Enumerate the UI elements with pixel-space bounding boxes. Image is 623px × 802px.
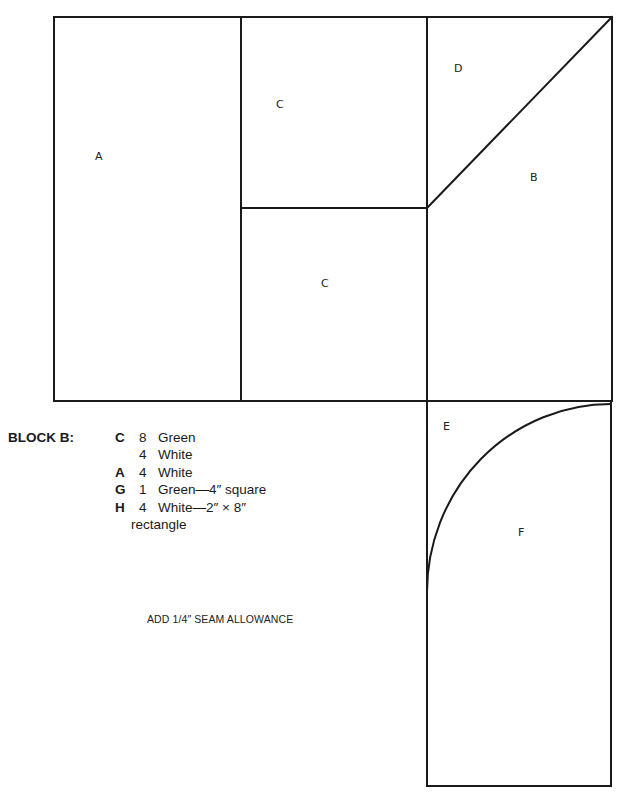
piece-label-c-bottom: C — [321, 277, 329, 290]
legend-description: Green — [158, 429, 196, 446]
legend-description: White — [158, 464, 193, 481]
legend-piece-letter: G — [115, 481, 126, 498]
diagonal-d-b — [427, 17, 612, 208]
legend-count: 4 — [139, 446, 147, 463]
quilt-pattern-diagram: A C C D B E F — [0, 0, 623, 802]
legend-piece-letter: C — [115, 429, 125, 446]
legend-description: White—2″ × 8″ — [158, 499, 246, 516]
legend-description: White — [158, 446, 193, 463]
curve-e-f — [427, 404, 611, 592]
legend-piece-letter: H — [115, 499, 125, 516]
piece-label-e: E — [443, 420, 450, 433]
legend-count: 4 — [139, 499, 147, 516]
seam-allowance-note: ADD 1/4″ SEAM ALLOWANCE — [147, 613, 293, 625]
piece-label-b: B — [530, 171, 538, 184]
legend-continuation: rectangle — [131, 516, 187, 533]
legend-piece-letter: A — [115, 464, 125, 481]
piece-label-d: D — [454, 62, 462, 75]
legend-count: 1 — [139, 481, 147, 498]
piece-label-c-top: C — [276, 98, 284, 111]
piece-label-a: A — [95, 150, 103, 163]
lower-frame — [427, 401, 611, 786]
legend-count: 8 — [139, 429, 147, 446]
piece-label-f: F — [518, 526, 524, 539]
legend-description: Green—4″ square — [158, 481, 266, 498]
legend-count: 4 — [139, 464, 147, 481]
legend-title: BLOCK B: — [8, 429, 74, 446]
